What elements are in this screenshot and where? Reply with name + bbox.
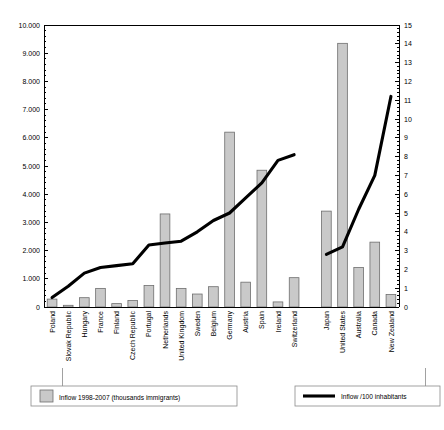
left-tick-label: 1.000 (22, 275, 40, 282)
bar-new-zealand (386, 295, 396, 307)
bar-austria (241, 282, 251, 307)
category-label-sweden: Sweden (194, 311, 201, 336)
legend-label-line: Inflow /100 inhabitants (341, 393, 407, 400)
bar-united-states (338, 43, 348, 307)
category-label-portugal: Portugal (145, 311, 153, 338)
bar-sweden (192, 294, 202, 307)
right-tick-label: 2 (404, 266, 408, 273)
legend-label-bars: Inflow 1998-2007 (thousands immigrants) (59, 394, 180, 402)
category-label-germany: Germany (226, 311, 234, 340)
left-tick-label: 10.000 (19, 22, 41, 29)
left-tick-label: 5.000 (22, 163, 40, 170)
category-label-japan: Japan (323, 311, 331, 330)
bar-germany (225, 132, 235, 307)
category-label-slovak-republic: Slovak Republic (65, 311, 73, 362)
category-label-ireland: Ireland (275, 311, 282, 333)
right-tick-label: 4 (404, 228, 408, 235)
left-tick-label: 8.000 (22, 78, 40, 85)
right-tick-label: 5 (404, 210, 408, 217)
immigration-inflow-chart: 01.0002.0003.0004.0005.0006.0007.0008.00… (0, 0, 444, 430)
category-label-france: France (97, 311, 104, 333)
category-label-new-zealand: New Zealand (388, 311, 395, 352)
right-tick-label: 14 (404, 40, 412, 47)
right-tick-label: 13 (404, 59, 412, 66)
right-tick-label: 11 (404, 97, 411, 104)
bar-finland (112, 304, 122, 307)
bar-poland (47, 299, 57, 307)
category-label-netherlands: Netherlands (162, 311, 169, 349)
category-label-austria: Austria (242, 311, 249, 333)
legend-layer: Inflow 1998-2007 (thousands immigrants)I… (31, 368, 440, 406)
bar-belgium (209, 287, 219, 307)
right-tick-label: 0 (404, 304, 408, 311)
left-tick-label: 2.000 (22, 247, 40, 254)
bar-switzerland (289, 278, 299, 307)
right-tick-label: 12 (404, 78, 412, 85)
category-labels: PolandSlovak RepublicHungaryFranceFinlan… (49, 311, 395, 362)
left-tick-label: 6.000 (22, 134, 40, 141)
chart-figure: 01.0002.0003.0004.0005.0006.0007.0008.00… (0, 0, 444, 430)
left-tick-label: 3.000 (22, 219, 40, 226)
bar-australia (354, 268, 364, 307)
right-tick-label: 3 (404, 247, 408, 254)
category-label-poland: Poland (49, 311, 56, 333)
left-tick-label: 9.000 (22, 50, 40, 57)
bar-ireland (273, 302, 283, 307)
right-tick-label: 8 (404, 153, 408, 160)
category-label-canada: Canada (371, 311, 378, 336)
bar-spain (257, 170, 267, 307)
right-tick-label: 1 (404, 285, 408, 292)
right-tick-label: 15 (404, 22, 412, 29)
bar-hungary (80, 298, 90, 307)
category-label-australia: Australia (355, 311, 362, 338)
right-tick-label: 10 (404, 116, 412, 123)
category-label-finland: Finland (113, 311, 120, 334)
bar-canada (370, 242, 380, 307)
bar-netherlands (160, 214, 170, 307)
category-label-spain: Spain (258, 311, 266, 329)
right-tick-label: 9 (404, 134, 408, 141)
bar-japan (322, 211, 332, 307)
bar-czech-republic (128, 301, 138, 307)
left-tick-label: 0 (36, 304, 40, 311)
category-label-united-kingdom: United Kingdom (178, 311, 186, 361)
bar-united-kingdom (176, 288, 186, 307)
right-tick-label: 6 (404, 191, 408, 198)
bar-portugal (144, 286, 154, 307)
legend-swatch-bars (40, 390, 53, 402)
line-inflow-per-100-settlement (326, 96, 391, 254)
right-axis-ticks: 0123456789101112131415 (395, 22, 412, 311)
category-label-belgium: Belgium (210, 311, 218, 336)
category-label-hungary: Hungary (81, 311, 89, 338)
right-tick-label: 7 (404, 172, 408, 179)
category-label-czech-republic: Czech Republic (129, 311, 137, 361)
category-label-united-states: United States (339, 311, 346, 354)
left-tick-label: 4.000 (22, 191, 40, 198)
category-label-switzerland: Switzerland (291, 311, 298, 347)
bar-france (96, 288, 106, 307)
left-tick-label: 7.000 (22, 106, 40, 113)
